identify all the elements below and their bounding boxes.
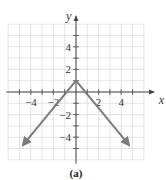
x-tick-label: −4 xyxy=(25,96,37,108)
figure-caption: (a) xyxy=(70,167,83,180)
y-tick-label: −2 xyxy=(59,109,71,121)
x-tick-label: 4 xyxy=(118,96,124,108)
x-axis-label: x xyxy=(158,93,165,107)
axes xyxy=(6,16,154,164)
y-tick-label: 4 xyxy=(66,41,72,53)
chart-plot: −4−22442−2−4 x y (a) xyxy=(0,0,166,180)
y-tick-label: −4 xyxy=(59,131,71,143)
y-tick-label: 2 xyxy=(66,63,72,75)
y-axis-label: y xyxy=(65,9,72,23)
